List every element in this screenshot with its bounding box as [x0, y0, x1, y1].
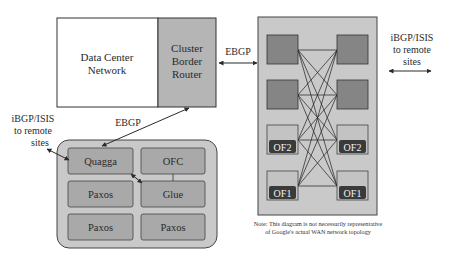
- switch-left-2: [267, 80, 298, 109]
- border-router-label-1: Cluster: [171, 42, 203, 54]
- note-line-2: of Google's actual WAN network topology: [265, 228, 372, 235]
- remote-left-label-2: to remote: [14, 125, 53, 136]
- data-center-network-label-2: Network: [88, 64, 127, 76]
- ebgp-top-link: EBGP: [219, 46, 257, 63]
- remote-right-label-2: to remote: [393, 44, 432, 55]
- remote-right-label-3: sites: [403, 56, 421, 67]
- controller-cluster: Quagga OFC Paxos Glue Paxos Paxos: [57, 140, 217, 248]
- cell-ofc-label: OFC: [163, 156, 183, 167]
- cell-glue-label: Glue: [163, 189, 184, 200]
- remote-left-label-1: iBGP/ISIS: [12, 113, 55, 124]
- network-diagram: Data Center Network Cluster Border Route…: [0, 0, 449, 259]
- border-router-label-3: Router: [172, 68, 202, 80]
- switch-panel: OF2 OF2 OF1 OF1: [258, 17, 377, 215]
- data-center-group: Data Center Network Cluster Border Route…: [57, 18, 216, 107]
- remote-left-label-3: sites: [31, 137, 49, 148]
- topology-note: Note: This diagram is not necessarily re…: [254, 220, 383, 235]
- data-center-network-label-1: Data Center: [81, 51, 134, 63]
- of1-right-label: OF1: [344, 188, 362, 199]
- switch-right-1: [337, 35, 368, 64]
- cell-paxos-1-label: Paxos: [88, 189, 113, 200]
- remote-right-label-1: iBGP/ISIS: [391, 32, 434, 43]
- of2-left-label: OF2: [274, 142, 292, 153]
- switch-right-2: [337, 80, 368, 109]
- note-line-1: Note: This diagram is not necessarily re…: [254, 220, 383, 227]
- of2-right-label: OF2: [344, 142, 362, 153]
- cell-quagga-label: Quagga: [84, 156, 117, 167]
- ebgp-bottom-label: EBGP: [115, 117, 141, 128]
- remote-sites-right: iBGP/ISIS to remote sites: [389, 32, 433, 71]
- cell-paxos-3-label: Paxos: [160, 222, 185, 233]
- ebgp-top-label: EBGP: [225, 46, 251, 57]
- cell-paxos-2-label: Paxos: [88, 222, 113, 233]
- border-router-label-2: Border: [172, 55, 203, 67]
- of1-left-label: OF1: [274, 188, 292, 199]
- switch-left-1: [267, 35, 298, 64]
